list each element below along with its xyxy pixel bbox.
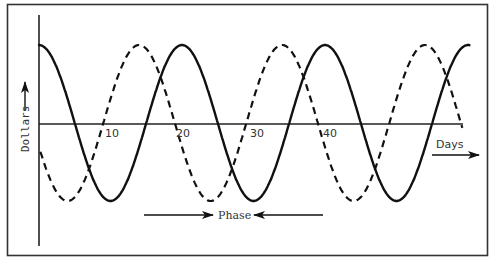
dashed-cycle-curve	[40, 45, 462, 201]
phase-label: Phase	[218, 209, 251, 222]
cycle-phase-diagram: 10 20 30 40 Dollars Days Phase	[0, 0, 495, 260]
tick-label-20: 20	[176, 127, 190, 140]
x-axis-label-group: Days	[432, 138, 479, 155]
phase-annotation: Phase	[144, 209, 323, 222]
figure-frame: 10 20 30 40 Dollars Days Phase	[0, 0, 495, 260]
y-axis-label: Dollars	[19, 106, 32, 152]
y-axis-label-group: Dollars	[19, 82, 32, 152]
tick-label-30: 30	[250, 127, 264, 140]
x-axis-label: Days	[436, 138, 464, 151]
tick-label-10: 10	[105, 127, 119, 140]
tick-label-40: 40	[323, 127, 337, 140]
